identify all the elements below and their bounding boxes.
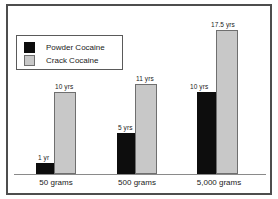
bar-crack-5000-grams — [216, 30, 238, 174]
bar-value-label-crack-50-grams: 10 yrs — [55, 83, 73, 90]
bar-value-label-crack-500-grams: 11 yrs — [136, 75, 154, 82]
bar-value-label-powder-5000-grams: 10 yrs — [190, 83, 208, 90]
bar-powder-50-grams — [36, 163, 54, 174]
category-label-5000-grams: 5,000 grams — [181, 178, 257, 187]
chart-legend: Powder Cocaine Crack Cocaine — [16, 35, 123, 70]
bar-crack-500-grams — [135, 84, 157, 174]
bar-value-label-powder-50-grams: 1 yr — [38, 154, 49, 161]
bar-powder-500-grams — [117, 133, 135, 174]
legend-item-powder-cocaine: Powder Cocaine — [24, 41, 105, 53]
legend-label-powder-cocaine: Powder Cocaine — [46, 43, 105, 52]
bar-crack-50-grams — [54, 92, 76, 174]
bar-value-label-crack-5000-grams: 17.5 yrs — [211, 21, 235, 28]
x-axis-line — [14, 174, 266, 175]
bar-value-label-powder-500-grams: 5 yrs — [118, 124, 133, 131]
bar-powder-5000-grams — [197, 92, 216, 174]
legend-swatch-powder-cocaine — [24, 42, 35, 53]
category-label-50-grams: 50 grams — [20, 178, 92, 187]
category-label-500-grams: 500 grams — [101, 178, 173, 187]
legend-label-crack-cocaine: Crack Cocaine — [46, 56, 98, 65]
chart-figure: 1 yr 10 yrs 50 grams 5 yrs 11 yrs 500 gr… — [0, 0, 278, 199]
legend-swatch-crack-cocaine — [24, 55, 35, 66]
legend-item-crack-cocaine: Crack Cocaine — [24, 54, 98, 66]
